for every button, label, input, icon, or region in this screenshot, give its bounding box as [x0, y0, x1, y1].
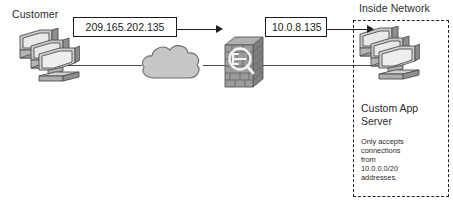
server-name-label: Custom App Server — [361, 102, 439, 127]
network-cloud-icon — [137, 40, 205, 92]
server-access-note: Only accepts connections from 10.0.0.0/2… — [361, 138, 441, 183]
inside-ip-callout: 10.0.8.135 — [265, 17, 327, 37]
outside-ip-callout: 209.165.202.135 — [73, 17, 177, 37]
customer-label: Customer — [12, 8, 58, 20]
arrowhead-inside-ip — [367, 25, 374, 33]
firewall-icon — [221, 35, 265, 97]
network-diagram: 209.165.202.135 10.0.8.135 Customer Insi… — [0, 0, 453, 207]
arrow-inside-ip-to-server — [327, 29, 368, 30]
pc-stack-icon — [18, 28, 80, 94]
note-line-5: addresses. — [361, 174, 441, 183]
arrow-outside-ip-to-firewall — [177, 29, 217, 30]
server-name-line-1: Custom App — [361, 102, 439, 115]
arrowhead-outside-ip — [216, 25, 223, 33]
server-name-line-2: Server — [361, 115, 439, 128]
pc-stack-icon — [358, 26, 420, 92]
inside-network-label: Inside Network — [359, 2, 430, 14]
